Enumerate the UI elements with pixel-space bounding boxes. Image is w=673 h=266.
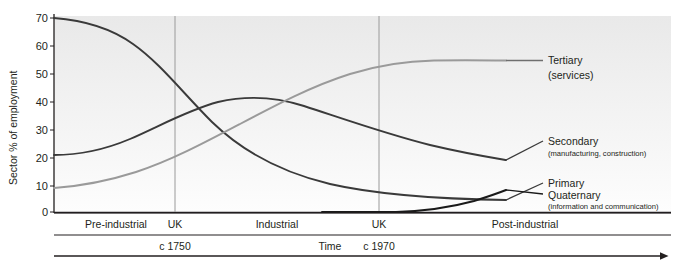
- time-label-c1970: c 1970: [363, 240, 395, 252]
- y-tick-label-10: 10: [36, 180, 48, 192]
- y-tick-label-0: 0: [42, 206, 48, 218]
- series-label-tertiary: Tertiary: [548, 54, 583, 66]
- time-label-c1750: c 1750: [159, 240, 191, 252]
- x-axis-title: Time: [319, 240, 342, 252]
- era-label-post-industrial: Post-industrial: [492, 218, 559, 230]
- y-tick-label-70: 70: [36, 12, 48, 24]
- y-tick-label-50: 50: [36, 68, 48, 80]
- y-axis-title: Sector % of employment: [7, 71, 19, 185]
- series-sublabel-secondary: (manufacturing, construction): [548, 149, 647, 158]
- sector-employment-line-chart: Sector % of employment 70 60 50 40 30 20…: [0, 0, 673, 266]
- series-label-quaternary: Quaternary: [548, 189, 601, 201]
- series-sublabel-tertiary: (services): [548, 69, 594, 81]
- y-tick-label-30: 30: [36, 124, 48, 136]
- series-label-primary: Primary: [548, 177, 585, 189]
- era-label-industrial: Industrial: [256, 218, 299, 230]
- era-marker-label-uk-1970: UK: [372, 218, 387, 230]
- era-marker-label-uk-1750: UK: [168, 218, 183, 230]
- era-label-pre-industrial: Pre-industrial: [85, 218, 147, 230]
- chart-figure: Sector % of employment 70 60 50 40 30 20…: [0, 0, 673, 266]
- series-label-secondary: Secondary: [548, 135, 599, 147]
- y-tick-label-60: 60: [36, 40, 48, 52]
- y-tick-label-20: 20: [36, 152, 48, 164]
- series-sublabel-quaternary: (information and communication): [548, 202, 659, 211]
- y-tick-label-40: 40: [36, 96, 48, 108]
